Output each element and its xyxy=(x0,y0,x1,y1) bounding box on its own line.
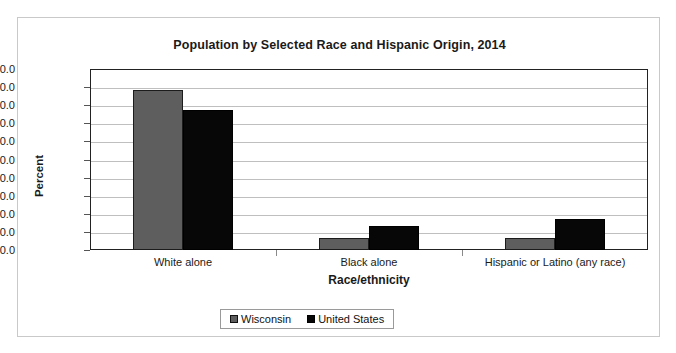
bar-wisconsin xyxy=(133,90,183,250)
legend-item-united-states: United States xyxy=(307,313,384,325)
legend-swatch-icon xyxy=(307,315,315,323)
x-axis-category-labels: White aloneBlack aloneHispanic or Latino… xyxy=(90,256,648,274)
y-axis-tick-label: 30.0 xyxy=(0,191,15,202)
x-axis-category-label: Black alone xyxy=(276,256,462,268)
y-axis-tick-label: 90.0 xyxy=(0,82,15,93)
bar-united-states xyxy=(183,110,233,250)
chart-legend: WisconsinUnited States xyxy=(220,309,394,329)
y-axis-tick-label: 10.0 xyxy=(0,227,15,238)
bars-layer xyxy=(90,69,648,250)
x-axis-title: Race/ethnicity xyxy=(90,273,648,287)
legend-label: Wisconsin xyxy=(241,313,291,325)
y-axis-tick-label: 50.0 xyxy=(0,155,15,166)
y-axis-tick-label: 100.0 xyxy=(0,64,15,75)
y-axis-tick-label: 0.0 xyxy=(0,245,15,256)
bar-united-states xyxy=(555,219,605,250)
legend-label: United States xyxy=(318,313,384,325)
y-axis-title: Percent xyxy=(33,131,45,221)
x-axis-category-label: White alone xyxy=(90,256,276,268)
y-axis-tick-label: 60.0 xyxy=(0,136,15,147)
chart-title: Population by Selected Race and Hispanic… xyxy=(18,38,661,52)
y-axis-tick-label: 80.0 xyxy=(0,100,15,111)
y-axis-tick-label: 70.0 xyxy=(0,118,15,129)
legend-swatch-icon xyxy=(230,315,238,323)
y-axis-tick-label: 20.0 xyxy=(0,209,15,220)
bar-wisconsin xyxy=(319,238,369,250)
x-axis-category-label: Hispanic or Latino (any race) xyxy=(462,256,648,268)
bar-united-states xyxy=(369,226,419,250)
legend-item-wisconsin: Wisconsin xyxy=(230,313,291,325)
bar-wisconsin xyxy=(505,238,555,250)
chart-figure: Population by Selected Race and Hispanic… xyxy=(17,17,660,337)
y-axis-tick-label: 40.0 xyxy=(0,173,15,184)
